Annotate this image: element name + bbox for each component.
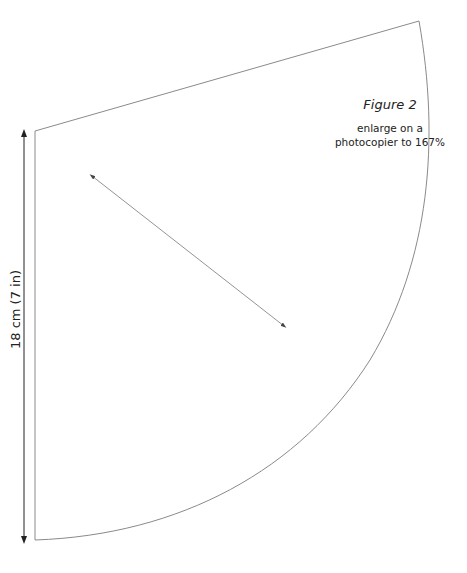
cone-pattern-diagram: [0, 0, 467, 573]
figure-note-line2: photocopier to 167%: [322, 135, 458, 149]
grain-arrow: [92, 176, 284, 326]
figure-title: Figure 2: [330, 97, 450, 112]
dimension-label: 18 cm (7 in): [8, 265, 23, 355]
figure-note-line1: enlarge on a: [322, 121, 458, 135]
figure-note: enlarge on a photocopier to 167%: [322, 121, 458, 149]
